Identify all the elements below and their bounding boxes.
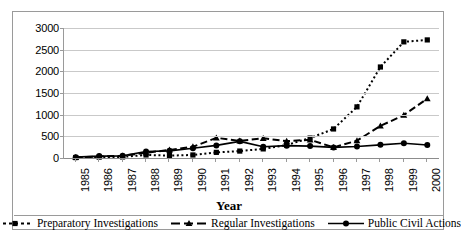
- data-point-marker: [377, 142, 383, 148]
- x-axis-tick-label: 1997: [360, 168, 372, 192]
- legend-item[interactable]: Preparatory Investigations: [0, 217, 158, 229]
- x-axis-tick-label: 1994: [290, 168, 302, 192]
- data-point-marker: [424, 95, 431, 101]
- x-axis-tick: [309, 159, 310, 162]
- legend-key-triangle: [171, 218, 207, 229]
- x-axis-tick: [145, 159, 146, 162]
- series-square: [73, 37, 430, 160]
- plot-area: [63, 28, 439, 158]
- data-point-marker: [143, 149, 149, 155]
- x-axis-tick: [262, 159, 263, 162]
- x-axis-tick-label: 1998: [383, 168, 395, 192]
- y-axis-tick: [60, 50, 64, 51]
- series-line: [76, 40, 428, 158]
- x-axis-tick-label: 1999: [407, 168, 419, 192]
- gridline: [64, 93, 439, 94]
- x-axis-tick: [286, 159, 287, 162]
- legend-label: Regular Investigations: [211, 217, 315, 229]
- x-axis-tick: [239, 159, 240, 162]
- x-axis-tick: [168, 159, 169, 162]
- x-axis-tick: [356, 159, 357, 162]
- data-point-marker: [190, 145, 196, 151]
- data-point-marker: [401, 140, 407, 146]
- data-point-marker: [378, 64, 383, 69]
- legend-label: Preparatory Investigations: [37, 217, 158, 229]
- x-axis-tick-label: 2000: [430, 168, 442, 192]
- y-axis-tick: [60, 71, 64, 72]
- y-axis-tick-label: 2500: [35, 44, 59, 56]
- x-axis-tick-label: 1985: [79, 168, 91, 192]
- gridline: [64, 50, 439, 51]
- series-line: [76, 99, 428, 158]
- x-axis-tick: [215, 159, 216, 162]
- x-axis-tick: [75, 159, 76, 162]
- data-point-marker: [354, 144, 360, 150]
- plot-wrapper: 050010001500200025003000: [13, 12, 445, 162]
- y-axis-tick-label: 1000: [35, 109, 59, 121]
- data-point-marker: [190, 152, 195, 157]
- data-point-marker: [237, 138, 243, 144]
- data-point-marker: [354, 104, 359, 109]
- x-axis-tick-label: 1989: [172, 168, 184, 192]
- x-axis-tick-label: 1993: [266, 168, 278, 192]
- y-axis-tick: [60, 28, 64, 29]
- data-point-marker: [425, 37, 430, 42]
- y-axis-tick-label: 3000: [35, 22, 59, 34]
- x-axis-tick: [333, 159, 334, 162]
- chart-frame: 050010001500200025003000 198519861987198…: [12, 11, 444, 230]
- x-axis-tick: [379, 159, 380, 162]
- legend-label: Public Civil Actions: [368, 217, 461, 229]
- x-axis-tick-label: 1995: [313, 168, 325, 192]
- y-axis-tick-label: 2000: [35, 65, 59, 77]
- data-point-marker: [284, 143, 290, 149]
- gridline: [64, 158, 439, 159]
- x-axis-tick-label: 1986: [102, 168, 114, 192]
- legend-key-square: [0, 218, 33, 229]
- data-point-marker: [166, 148, 172, 154]
- x-axis-tick: [192, 159, 193, 162]
- x-axis-labels: 1985198619871988198919901991199219931994…: [63, 160, 438, 200]
- data-point-marker: [307, 143, 313, 149]
- x-axis-title: Year: [13, 198, 445, 214]
- data-point-marker: [401, 39, 406, 44]
- chart-legend: Preparatory InvestigationsRegular Invest…: [13, 216, 445, 230]
- y-axis-tick: [60, 136, 64, 137]
- legend-item[interactable]: Public Civil Actions: [328, 217, 461, 229]
- y-axis-tick-label: 1500: [35, 87, 59, 99]
- gridline: [64, 28, 439, 29]
- gridline: [64, 115, 439, 116]
- legend-key-circle: [328, 218, 364, 229]
- y-axis-labels: 050010001500200025003000: [13, 12, 62, 162]
- x-axis-tick-label: 1992: [243, 168, 255, 192]
- data-point-marker: [331, 126, 336, 131]
- legend-item[interactable]: Regular Investigations: [171, 217, 315, 229]
- data-point-marker: [213, 142, 219, 148]
- y-axis-tick: [60, 93, 64, 94]
- data-point-marker: [237, 148, 242, 153]
- x-axis-tick: [403, 159, 404, 162]
- x-axis-tick: [122, 159, 123, 162]
- y-axis-tick-label: 500: [41, 130, 59, 142]
- gridline: [64, 136, 439, 137]
- x-axis-tick: [426, 159, 427, 162]
- data-point-marker: [424, 142, 430, 148]
- x-axis-tick-label: 1991: [219, 168, 231, 192]
- x-axis-tick-label: 1988: [149, 168, 161, 192]
- data-point-marker: [214, 150, 219, 155]
- data-point-marker: [260, 144, 266, 150]
- y-axis-tick: [60, 115, 64, 116]
- gridline: [64, 71, 439, 72]
- x-axis-tick: [98, 159, 99, 162]
- data-point-marker: [331, 144, 337, 150]
- x-axis-tick-label: 1996: [337, 168, 349, 192]
- y-axis-tick: [60, 158, 64, 159]
- x-axis-tick-label: 1987: [126, 168, 138, 192]
- x-axis-tick-label: 1990: [196, 168, 208, 192]
- y-axis-tick-label: 0: [53, 152, 59, 164]
